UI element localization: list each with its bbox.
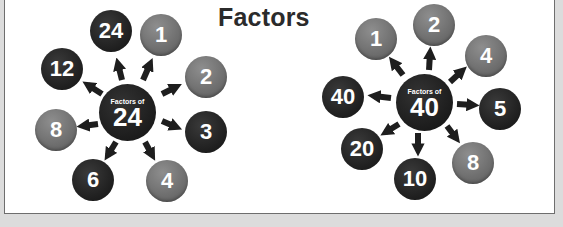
factor-value: 24 xyxy=(99,18,123,44)
factor-node: 3 xyxy=(185,111,227,153)
factor-value: 20 xyxy=(350,136,374,162)
factor-value: 2 xyxy=(428,12,440,38)
factor-node: 2 xyxy=(185,56,227,98)
factor-value: 12 xyxy=(50,56,74,82)
factor-node: 24 xyxy=(90,10,132,52)
factor-node: 5 xyxy=(479,88,521,130)
center-number: 40 xyxy=(410,95,439,119)
factor-value: 5 xyxy=(494,96,506,122)
factor-value: 6 xyxy=(87,167,99,193)
factor-node: 6 xyxy=(72,159,114,201)
factor-value: 3 xyxy=(200,119,212,145)
factor-node: 20 xyxy=(341,128,383,170)
factor-node: 8 xyxy=(452,142,494,184)
factor-node: 1 xyxy=(140,14,182,56)
factor-value: 2 xyxy=(200,64,212,90)
factor-value: 8 xyxy=(50,117,62,143)
factor-node: 4 xyxy=(465,35,507,77)
factor-node: 1 xyxy=(355,18,397,60)
factor-value: 4 xyxy=(161,168,173,194)
factor-node: 8 xyxy=(35,109,77,151)
factor-node: 12 xyxy=(41,48,83,90)
factor-node: 4 xyxy=(146,160,188,202)
factor-node: 40 xyxy=(322,76,364,118)
center-node-24: Factors of 24 xyxy=(99,84,156,141)
factor-value: 10 xyxy=(403,166,427,192)
factor-node: 10 xyxy=(394,158,436,200)
factor-value: 1 xyxy=(155,22,167,48)
center-node-40: Factors of 40 xyxy=(396,74,453,131)
factor-value: 1 xyxy=(370,26,382,52)
factor-value: 40 xyxy=(331,84,355,110)
factor-value: 4 xyxy=(480,43,492,69)
factor-value: 8 xyxy=(467,150,479,176)
factor-node: 2 xyxy=(413,4,455,46)
center-number: 24 xyxy=(113,105,142,129)
